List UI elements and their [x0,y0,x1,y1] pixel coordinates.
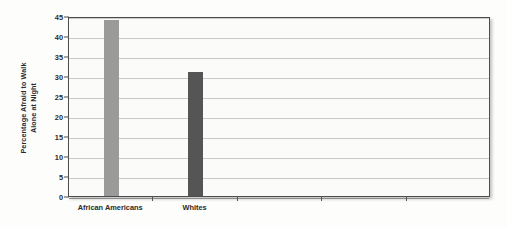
y-tick-label: 30 [55,73,63,82]
y-tick-label: 15 [55,133,63,142]
bar [188,72,203,196]
y-axis-title: Percentage Afraid to Walk Alone at Night [14,20,44,195]
x-tick-mark [321,197,322,201]
y-tick-label: 0 [59,193,63,202]
bar-chart-figure: Percentage Afraid to Walk Alone at Night… [0,0,507,227]
x-tick-mark [406,197,407,201]
y-tick-label: 35 [55,53,63,62]
x-category-label: African Americans [78,203,143,212]
bar-series [69,18,489,196]
y-tick-label: 25 [55,93,63,102]
x-axis-tick-marks [68,197,490,202]
plot-area [68,17,490,197]
y-tick-label: 40 [55,33,63,42]
x-tick-mark [237,197,238,201]
y-tick-label: 5 [59,173,63,182]
y-tick-label: 45 [55,13,63,22]
x-tick-mark [152,197,153,201]
x-category-label: Whites [182,203,206,212]
y-axis-title-line-1: Percentage Afraid to Walk [19,62,28,153]
y-axis-tick-labels: 051015202530354045 [44,17,66,197]
bar [104,20,119,196]
y-tick-label: 20 [55,113,63,122]
x-axis-category-labels: African AmericansWhites [68,203,490,219]
y-tick-label: 10 [55,153,63,162]
y-axis-title-line-2: Alone at Night [29,82,38,132]
